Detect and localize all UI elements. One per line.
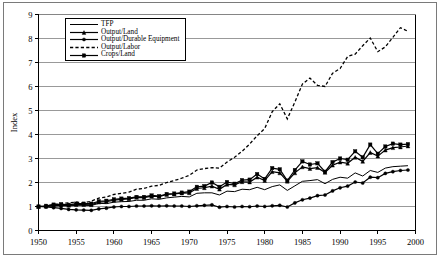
- y-tick-label: 5: [28, 106, 32, 116]
- legend-swatch-output-durable-equipment: [69, 36, 99, 43]
- x-tick-label: 1965: [143, 237, 160, 247]
- series-output-land: [37, 144, 410, 208]
- x-tick-label: 1975: [219, 237, 236, 247]
- legend-label-crops-land: Crops/Land: [101, 51, 135, 59]
- y-axis-label: Index: [9, 112, 19, 132]
- y-tick-label: 6: [28, 82, 32, 92]
- x-tick-label: 1985: [294, 237, 311, 247]
- legend-swatch-output-labor: [69, 44, 99, 51]
- series-crops-land: [37, 142, 410, 208]
- x-tick-label: 1995: [369, 237, 386, 247]
- legend-swatch-tfp: [69, 21, 99, 28]
- x-tick-label: 2000: [407, 237, 424, 247]
- y-tick-label: 1: [28, 202, 32, 212]
- chart-legend: TFP Output/Land Output/Durable Equipment…: [65, 18, 186, 61]
- y-tick-label: 7: [28, 58, 32, 68]
- x-tick-label: 1970: [181, 237, 198, 247]
- y-tick-label: 4: [28, 130, 33, 140]
- y-tick-label: 8: [28, 34, 32, 44]
- y-tick-label: 9: [28, 10, 32, 20]
- x-tick-label: 1980: [256, 237, 273, 247]
- x-tick-label: 1955: [68, 237, 85, 247]
- y-tick-label: 3: [28, 154, 32, 164]
- x-tick-label: 1990: [332, 237, 349, 247]
- legend-item: Crops/Land: [69, 51, 182, 59]
- x-axis-tick-labels: 1950195519601965197019751980198519901995…: [30, 237, 424, 247]
- figure-container: 0123456789 19501955196019651970197519801…: [0, 0, 441, 266]
- x-tick-label: 1950: [30, 237, 47, 247]
- x-tick-label: 1960: [105, 237, 122, 247]
- y-axis-tick-labels: 0123456789: [28, 10, 33, 236]
- legend-swatch-output-land: [69, 29, 99, 36]
- y-axis-title: Index: [9, 112, 19, 132]
- y-tick-label: 0: [28, 226, 32, 236]
- legend-swatch-crops-land: [69, 52, 99, 59]
- y-tick-label: 2: [28, 178, 32, 188]
